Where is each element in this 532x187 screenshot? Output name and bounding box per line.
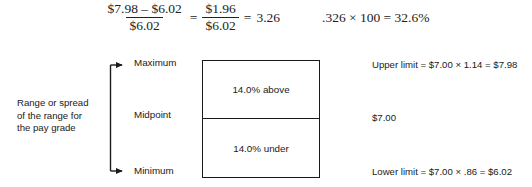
pay-range-box-upper-half: 14.0% above [203, 61, 319, 119]
pay-range-box-upper-label: 14.0% above [232, 84, 289, 95]
range-spread-caption: Range or spread of the range for the pay… [17, 97, 109, 135]
range-spread-caption-line-2: of the range for [17, 110, 109, 123]
upper-limit-note: Upper limit = $7.00 × 1.14 = $7.98 [372, 59, 517, 70]
pay-range-box-lower-half: 14.0% under [203, 119, 319, 177]
range-spread-caption-line-3: the pay grade [17, 122, 109, 135]
range-spread-caption-line-1: Range or spread [17, 97, 109, 110]
axis-label-maximum: Maximum [134, 57, 176, 68]
lower-limit-note: Lower limit = $7.00 × .86 = $6.02 [372, 166, 512, 177]
axis-label-minimum: Minimum [134, 165, 174, 176]
pay-range-diagram: Range or spread of the range for the pay… [0, 0, 532, 187]
pay-range-box: 14.0% above 14.0% under [202, 60, 320, 178]
pay-range-box-lower-label: 14.0% under [233, 143, 289, 154]
figure-root: $7.98 – $6.02 $6.02 = $1.96 $6.02 = 3.26… [0, 0, 532, 187]
midpoint-value-note: $7.00 [372, 112, 396, 123]
axis-label-midpoint: Midpoint [134, 109, 171, 120]
range-bracket-arrows-icon [100, 52, 136, 184]
